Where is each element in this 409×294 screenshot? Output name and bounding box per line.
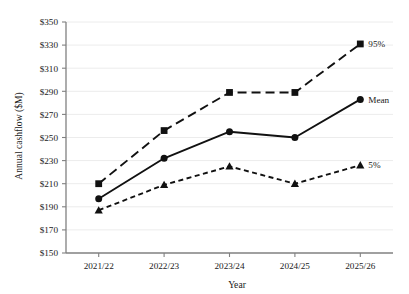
marker-circle-Mean [161, 155, 168, 162]
marker-square-95% [357, 41, 364, 48]
series-label-5%: 5% [368, 160, 381, 170]
y-tick-label: $230 [40, 156, 59, 166]
y-tick-label: $290 [40, 87, 59, 97]
series-label-Mean: Mean [368, 95, 389, 105]
marker-square-95% [161, 127, 168, 134]
marker-circle-Mean [357, 96, 364, 103]
y-axis-title: Annual cashflow ($M) [13, 92, 25, 179]
y-tick-label: $190 [40, 202, 59, 212]
x-tick-label: 2022/23 [149, 261, 180, 271]
x-axis-title: Year [228, 279, 246, 290]
series-label-95%: 95% [368, 39, 385, 49]
y-tick-label: $170 [40, 225, 59, 235]
marker-square-95% [292, 89, 299, 96]
chart-container: $150$170$190$210$230$250$270$290$310$330… [0, 0, 409, 294]
x-tick-label: 2023/24 [214, 261, 245, 271]
line-chart: $150$170$190$210$230$250$270$290$310$330… [0, 0, 409, 294]
y-tick-label: $250 [40, 133, 59, 143]
y-tick-label: $330 [40, 40, 59, 50]
y-tick-label: $210 [40, 179, 59, 189]
marker-square-95% [95, 180, 102, 187]
marker-square-95% [226, 89, 233, 96]
marker-circle-Mean [95, 195, 102, 202]
x-tick-label: 2025/26 [345, 261, 376, 271]
marker-circle-Mean [226, 128, 233, 135]
chart-background [0, 0, 409, 294]
marker-circle-Mean [291, 134, 298, 141]
y-tick-label: $270 [40, 110, 59, 120]
x-tick-label: 2021/22 [84, 261, 115, 271]
x-tick-label: 2024/25 [280, 261, 311, 271]
y-tick-label: $350 [40, 17, 59, 27]
y-tick-label: $150 [40, 248, 59, 258]
y-tick-label: $310 [40, 64, 59, 74]
